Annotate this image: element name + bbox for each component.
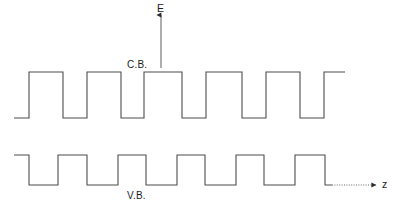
band-diagram-canvas bbox=[0, 0, 397, 219]
figure-background bbox=[0, 0, 397, 219]
band-diagram-figure: E C.B. V.B. z bbox=[0, 0, 397, 219]
valence-band-label: V.B. bbox=[127, 191, 146, 201]
energy-axis-label: E bbox=[157, 3, 164, 14]
conduction-band-label: C.B. bbox=[127, 60, 147, 70]
z-axis-label: z bbox=[382, 179, 387, 190]
